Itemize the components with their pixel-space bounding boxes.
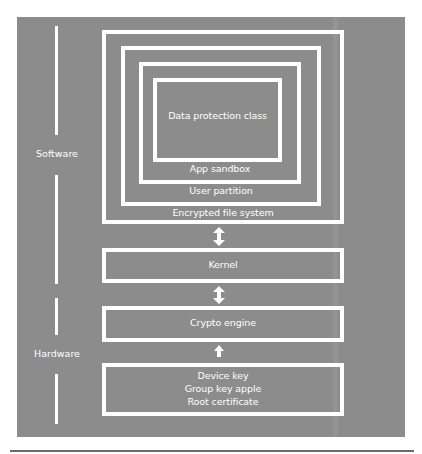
group-key-label: Group key apple [102, 382, 344, 395]
hardware-bracket-top [55, 298, 58, 335]
up-arrow-icon [214, 345, 224, 357]
device-key-label: Device key [102, 369, 344, 382]
software-label: Software [17, 148, 97, 159]
app-sandbox-label: App sandbox [139, 163, 301, 174]
root-certificate-label: Root certificate [102, 395, 344, 408]
diagram-panel: Software Hardware Encrypted file system … [17, 17, 405, 437]
kernel-label: Kernel [102, 259, 344, 270]
hardware-label: Hardware [17, 348, 97, 359]
hardware-bracket-bottom [55, 374, 58, 424]
encrypted-file-system-label: Encrypted file system [102, 207, 344, 218]
data-protection-class-label: Data protection class [153, 110, 282, 121]
keys-list: Device key Group key apple Root certific… [102, 369, 344, 408]
user-partition-label: User partition [121, 185, 321, 196]
bidirectional-arrow-icon [213, 227, 225, 246]
software-bracket-top [55, 26, 58, 135]
software-bracket-bottom [55, 175, 58, 284]
bidirectional-arrow-icon [213, 286, 225, 304]
crypto-engine-label: Crypto engine [102, 317, 344, 328]
bottom-divider [10, 450, 414, 452]
